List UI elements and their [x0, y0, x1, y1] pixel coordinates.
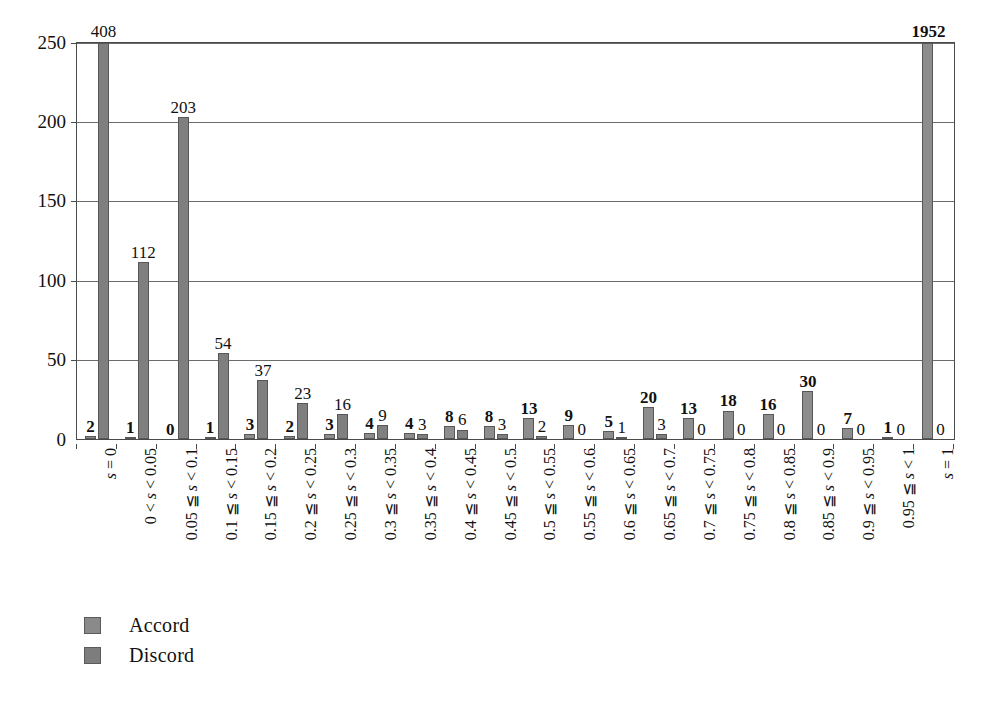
bar-value-label-accord: 16: [752, 396, 784, 413]
x-axis-label: 0.55 ≦ s < 0.6: [580, 448, 599, 540]
x-axis-tick: [116, 444, 117, 449]
x-axis-tick: [953, 444, 954, 449]
x-axis-label: 0.85 ≦ s < 0.9: [819, 448, 838, 540]
bar-value-label-accord: 0: [154, 421, 186, 438]
x-axis-tick: [714, 444, 715, 449]
y-axis-tick: [71, 201, 77, 202]
bar-accord: [205, 437, 216, 439]
bar-accord: [404, 433, 415, 439]
legend-item-discord: Discord: [84, 640, 194, 670]
gridline: [77, 281, 954, 282]
y-axis-tick: [71, 122, 77, 123]
x-axis-tick: [395, 444, 396, 449]
x-axis-label: 0.7 ≦ s < 0.75: [700, 448, 719, 540]
bar-value-label-discord: 203: [167, 99, 199, 116]
bar-value-label-accord: 3: [234, 416, 266, 433]
bar-value-label-accord: 18: [712, 392, 744, 409]
x-axis-label: 0.8 ≦ s < 0.85: [780, 448, 799, 540]
bar-value-label-discord: 16: [327, 396, 359, 413]
x-axis-tick: [554, 444, 555, 449]
gridline: [77, 43, 954, 44]
plot-area: 2408111202031543372233164943868313290512…: [76, 42, 955, 440]
x-axis-tick: [515, 444, 516, 449]
bar-value-label-discord: 3: [486, 416, 518, 433]
x-axis-label: 0.1 ≦ s < 0.15: [222, 448, 241, 540]
bar-accord: [125, 437, 136, 439]
bar-value-label-accord: 2: [74, 418, 106, 435]
x-axis-label: 0.2 ≦ s < 0.25: [301, 448, 320, 540]
y-tick-label: 250: [38, 33, 67, 52]
bar-discord: [178, 117, 189, 439]
bar-accord: [284, 436, 295, 439]
x-axis-tick: [913, 444, 914, 449]
bar-accord: [244, 434, 255, 439]
y-axis-tick: [71, 281, 77, 282]
bar-value-label-accord: 13: [672, 400, 704, 417]
x-axis-label: 0.95 ≦ s < 1: [899, 448, 918, 528]
bar-accord: [364, 433, 375, 439]
x-axis-tick: [156, 444, 157, 449]
bar-value-label-accord: 1952: [912, 23, 944, 40]
x-axis-tick: [435, 444, 436, 449]
y-tick-label: 150: [38, 191, 67, 210]
bar-value-label-discord: 3: [646, 416, 678, 433]
bar-value-label-accord: 13: [513, 400, 545, 417]
x-axis-label: 0.4 ≦ s < 0.45: [461, 448, 480, 540]
x-axis-tick: [634, 444, 635, 449]
x-axis-label: 0.9 ≦ s < 0.95: [859, 448, 878, 540]
x-axis-label: s = 1: [939, 448, 957, 479]
bar-accord: [85, 436, 96, 439]
bar-value-label-discord: 37: [247, 362, 279, 379]
legend: Accord Discord: [84, 610, 194, 670]
bar-discord: [616, 437, 627, 439]
bar-value-label-discord: 54: [207, 335, 239, 352]
bar-value-label-discord: 0: [925, 421, 957, 438]
legend-label: Discord: [129, 644, 194, 667]
bar-value-label-discord: 23: [287, 385, 319, 402]
y-axis: 250 200 150 100 50 0: [0, 0, 66, 710]
bar-accord: [324, 434, 335, 439]
x-axis-label: s = 0: [102, 448, 120, 479]
gridline: [77, 201, 954, 202]
gridline: [77, 122, 954, 123]
bar-discord: [417, 434, 428, 439]
bar-value-label-accord: 1: [114, 419, 146, 436]
bar-chart: 250 200 150 100 50 0 2408111202031543372…: [0, 0, 991, 710]
bar-value-label-discord: 112: [127, 244, 159, 261]
y-tick-label: 0: [57, 430, 67, 449]
bar-value-label-discord: 0: [885, 421, 917, 438]
x-axis-tick: [76, 444, 77, 449]
x-axis-label: 0.75 ≦ s < 0.8: [740, 448, 759, 540]
bar-discord: [457, 430, 468, 440]
bar-value-label-discord: 408: [87, 23, 119, 40]
y-tick-label: 200: [38, 112, 67, 131]
bar-value-label-accord: 20: [633, 389, 665, 406]
bar-value-label-discord: 0: [685, 421, 717, 438]
x-axis-label: 0.5 ≦ s < 0.55: [540, 448, 559, 540]
x-axis-tick: [873, 444, 874, 449]
y-tick-label: 100: [38, 271, 67, 290]
x-axis-tick: [475, 444, 476, 449]
bar-discord: [536, 436, 547, 439]
x-axis-label: 0.65 ≦ s < 0.7: [660, 448, 679, 540]
x-axis-label: 0.05 ≦ s < 0.1: [182, 448, 201, 540]
bar-discord: [656, 434, 667, 439]
bar-discord: [138, 262, 149, 439]
gridline: [77, 360, 954, 361]
legend-label: Accord: [129, 614, 190, 637]
x-axis-tick: [674, 444, 675, 449]
bar-value-label-accord: 2: [274, 418, 306, 435]
x-axis-label: 0.35 ≦ s < 0.4: [421, 448, 440, 540]
bar-accord: [922, 43, 933, 439]
y-tick-label: 50: [47, 350, 66, 369]
x-axis-tick: [355, 444, 356, 449]
x-axis-tick: [275, 444, 276, 449]
bar-value-label-discord: 0: [725, 421, 757, 438]
legend-item-accord: Accord: [84, 610, 194, 640]
x-axis-tick: [315, 444, 316, 449]
legend-swatch-icon: [84, 647, 101, 664]
x-axis-label: 0 < s < 0.05: [142, 448, 160, 524]
x-axis-label: 0.45 ≦ s < 0.5: [501, 448, 520, 540]
x-axis-label: 0.25 ≦ s < 0.3: [341, 448, 360, 540]
x-axis-tick: [594, 444, 595, 449]
